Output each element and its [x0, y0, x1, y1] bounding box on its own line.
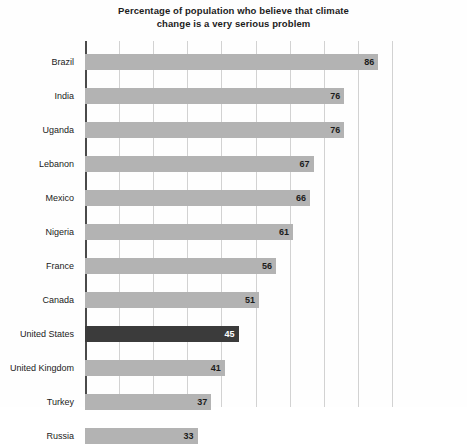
- bar-value-label: 51: [85, 292, 259, 308]
- plot-area: 867676676661565145413733: [85, 41, 392, 407]
- category-axis-labels: BrazilIndiaUgandaLebanonMexicoNigeriaFra…: [0, 41, 79, 407]
- bar-row[interactable]: 86: [85, 45, 392, 79]
- bar-row[interactable]: 76: [85, 113, 392, 147]
- category-label-canada: Canada: [0, 283, 79, 317]
- chart-title-line-1: Percentage of population who believe tha…: [0, 4, 467, 17]
- bar-value-label: 56: [85, 258, 276, 274]
- bar-value-label: 33: [85, 428, 198, 444]
- bar-row[interactable]: 45: [85, 317, 392, 351]
- category-label-mexico: Mexico: [0, 181, 79, 215]
- bar-row[interactable]: 76: [85, 79, 392, 113]
- bar-row[interactable]: 67: [85, 147, 392, 181]
- category-label-lebanon: Lebanon: [0, 147, 79, 181]
- bar-value-label: 86: [85, 54, 378, 70]
- bar-value-label: 76: [85, 122, 344, 138]
- category-label-uganda: Uganda: [0, 113, 79, 147]
- bar-row[interactable]: 37: [85, 385, 392, 419]
- chart-title-line-2: change is a very serious problem: [0, 17, 467, 30]
- category-label-united-kingdom: United Kingdom: [0, 351, 79, 385]
- bar-value-label: 41: [85, 360, 225, 376]
- bar-rows: 867676676661565145413733: [85, 41, 392, 407]
- bar-row[interactable]: 51: [85, 283, 392, 317]
- category-label-india: India: [0, 79, 79, 113]
- bar-value-label: 61: [85, 224, 293, 240]
- gridline-90: [392, 41, 393, 407]
- category-label-france: France: [0, 249, 79, 283]
- bar-row[interactable]: 56: [85, 249, 392, 283]
- category-label-russia: Russia: [0, 419, 79, 448]
- bar-row[interactable]: 41: [85, 351, 392, 385]
- bar-value-label: 45: [85, 326, 239, 342]
- bar-row[interactable]: 61: [85, 215, 392, 249]
- bar-value-label: 76: [85, 88, 344, 104]
- bar-row[interactable]: 66: [85, 181, 392, 215]
- category-label-brazil: Brazil: [0, 45, 79, 79]
- bar-value-label: 66: [85, 190, 310, 206]
- chart-title: Percentage of population who believe tha…: [0, 4, 467, 30]
- category-label-turkey: Turkey: [0, 385, 79, 419]
- bar-row[interactable]: 33: [85, 419, 392, 448]
- bar-value-label: 67: [85, 156, 314, 172]
- category-label-nigeria: Nigeria: [0, 215, 79, 249]
- bar-value-label: 37: [85, 394, 211, 410]
- category-label-united-states: United States: [0, 317, 79, 351]
